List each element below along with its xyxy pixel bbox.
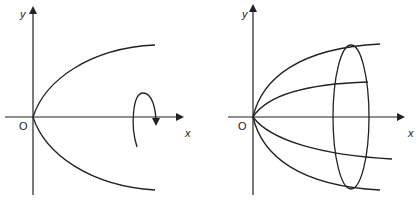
left-figure: y O x bbox=[5, 8, 191, 195]
right-x-label: x bbox=[407, 127, 414, 139]
right-origin-label: O bbox=[238, 120, 247, 132]
left-y-label: y bbox=[19, 8, 27, 20]
rotation-arrow-icon bbox=[133, 93, 156, 147]
inner-top-curve bbox=[253, 82, 368, 117]
diagram-canvas: y O x y O x bbox=[0, 0, 418, 201]
right-figure: y O x bbox=[228, 6, 414, 195]
right-y-label: y bbox=[241, 8, 249, 20]
outer-top-curve bbox=[253, 44, 380, 117]
outer-bottom-curve bbox=[253, 117, 380, 190]
left-origin-label: O bbox=[19, 120, 28, 132]
inner-bottom-curve bbox=[253, 117, 392, 159]
left-x-label: x bbox=[184, 127, 191, 139]
